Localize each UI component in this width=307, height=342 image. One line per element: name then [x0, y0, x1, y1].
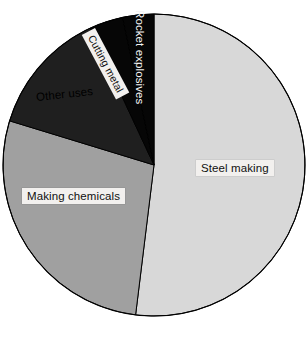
pie-chart-figure: Steel making Making chemicals Other uses… [0, 0, 307, 342]
pie-label-rocket-explosives: Rocket explosives [134, 10, 146, 104]
pie-label-steel-making: Steel making [196, 160, 274, 176]
pie-label-making-chemicals: Making chemicals [22, 188, 125, 204]
